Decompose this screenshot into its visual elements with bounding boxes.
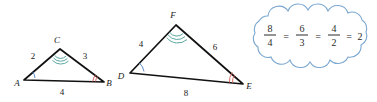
vertex-label-F: F [169,10,176,20]
equals-sign-3: = [346,31,352,42]
triangle-DEF-outline [130,25,243,84]
side-label-AB: 4 [60,87,65,97]
angle-mark-F-arc-3 [167,38,187,43]
triangle-ABC-group: A B C 2 3 4 [13,35,112,97]
side-label-DE: 8 [184,88,189,98]
angle-mark-C-arcs [53,56,69,65]
triangle-DEF-group: D E F 4 6 8 [117,10,253,98]
equals-sign-1: = [283,31,289,42]
fraction-2-denominator: 3 [300,37,305,48]
vertex-label-A: A [13,78,20,88]
vertex-label-C: C [54,35,61,45]
angle-mark-F-arcs [167,32,187,43]
fraction-3-numerator: 4 [332,23,337,34]
angle-mark-B-arc-2 [93,75,96,82]
side-label-FE: 6 [213,42,218,52]
geometry-diagram-canvas: A B C 2 3 4 D [0,0,377,102]
proportion-cloud-callout: 8 4 = 6 3 = 4 2 = 2 [253,4,366,68]
fraction-1-denominator: 4 [268,37,273,48]
angle-mark-D-arc-1 [140,63,145,72]
vertex-label-B: B [106,78,112,88]
fraction-3-denominator: 2 [332,37,337,48]
similar-triangles-figure: A B C 2 3 4 D [0,0,377,102]
vertex-label-E: E [245,81,252,91]
equals-sign-2: = [315,31,321,42]
triangle-ABC-outline [24,49,104,82]
fraction-2-numerator: 6 [300,23,305,34]
fraction-1-numerator: 8 [268,23,273,34]
angle-mark-F-arc-1 [170,32,184,36]
side-label-DF: 4 [139,39,144,49]
side-label-AC: 2 [31,51,36,61]
proportion-result-value: 2 [358,31,363,42]
side-label-CB: 3 [83,51,88,61]
angle-mark-C-arc-1 [55,56,66,59]
vertex-label-D: D [117,71,125,81]
angle-mark-B-arc-1 [96,76,98,81]
